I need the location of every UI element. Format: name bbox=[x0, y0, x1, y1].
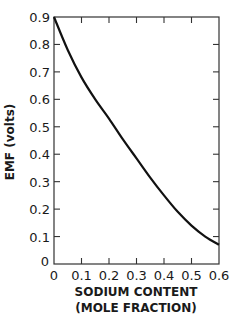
x-axis-label-line1: SODIUM CONTENT bbox=[75, 285, 199, 299]
x-tick-label: 0.1 bbox=[71, 268, 92, 283]
y-tick-label: 0.5 bbox=[29, 120, 50, 135]
emf-chart: 00.10.20.30.40.50.600.10.20.30.40.50.60.… bbox=[0, 0, 239, 323]
x-tick-label: 0.5 bbox=[181, 268, 202, 283]
x-tick-label: 0.4 bbox=[154, 268, 175, 283]
y-axis-label: EMF (volts) bbox=[3, 104, 17, 181]
y-tick-label: 0.7 bbox=[29, 65, 50, 80]
x-axis-label-line2: (MOLE FRACTION) bbox=[75, 301, 197, 315]
tick-labels: 00.10.20.30.40.50.600.10.20.30.40.50.60.… bbox=[29, 10, 229, 283]
x-tick-label: 0.2 bbox=[99, 268, 120, 283]
emf-curve bbox=[54, 17, 219, 245]
x-tick-label: 0 bbox=[50, 268, 58, 283]
y-tick-label: 0.9 bbox=[29, 10, 50, 25]
y-tick-label: 0.3 bbox=[29, 175, 50, 190]
y-tick-label: 0.1 bbox=[29, 230, 50, 245]
y-tick-label: 0.6 bbox=[29, 92, 50, 107]
y-tick-label: 0 bbox=[41, 254, 49, 269]
x-tick-label: 0.3 bbox=[126, 268, 147, 283]
y-tick-label: 0.8 bbox=[29, 37, 50, 52]
y-tick-label: 0.4 bbox=[29, 147, 50, 162]
x-tick-label: 0.6 bbox=[209, 268, 230, 283]
y-tick-label: 0.2 bbox=[29, 202, 50, 217]
